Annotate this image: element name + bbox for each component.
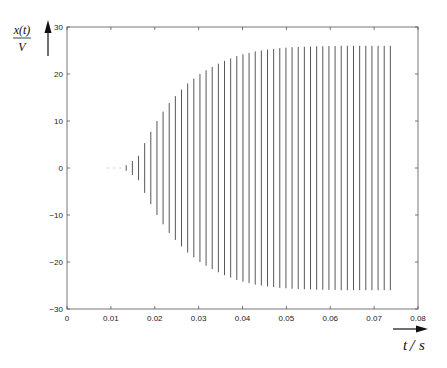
- y-tick-label: 20: [54, 70, 63, 79]
- y-tick-label: −30: [49, 305, 63, 314]
- x-tick-label: 0.06: [322, 314, 338, 323]
- y-label-denominator: V: [18, 40, 27, 54]
- x-tick-label: 0.01: [103, 314, 119, 323]
- y-axis-ticks: −30−20−100102030: [49, 23, 418, 314]
- y-label-numerator: x(t): [13, 23, 31, 37]
- oscillation-lines: [108, 46, 391, 290]
- x-tick-label: 0.04: [235, 314, 251, 323]
- x-tick-label: 0.08: [410, 314, 426, 323]
- x-tick-label: 0.07: [366, 314, 382, 323]
- x-label-slash: /: [409, 336, 417, 355]
- x-label-s: s: [419, 337, 425, 353]
- x-label-t: t: [403, 337, 408, 353]
- chart: 00.010.020.030.040.050.060.070.08 −30−20…: [0, 0, 447, 368]
- y-tick-label: 30: [54, 23, 63, 32]
- y-tick-label: 10: [54, 117, 63, 126]
- x-tick-label: 0: [65, 314, 70, 323]
- x-tick-label: 0.03: [191, 314, 207, 323]
- x-tick-label: 0.02: [147, 314, 163, 323]
- y-tick-label: −20: [49, 258, 63, 267]
- y-tick-label: −10: [49, 211, 63, 220]
- y-axis-arrow-icon: [45, 20, 52, 33]
- x-tick-label: 0.05: [279, 314, 295, 323]
- x-axis-arrow-icon: [416, 326, 428, 333]
- y-tick-label: 0: [59, 164, 64, 173]
- x-axis-label: t / s: [393, 326, 428, 356]
- y-axis-label: x(t) V: [13, 20, 52, 56]
